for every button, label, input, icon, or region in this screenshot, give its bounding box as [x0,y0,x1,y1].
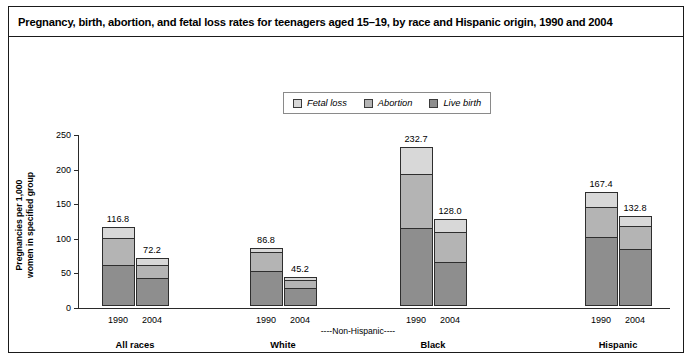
segment-live-birth [619,249,652,306]
segment-abortion [400,174,433,229]
group-label-white: White [270,340,295,350]
legend-item: Live birth [429,98,481,108]
y-tick-label: 250 [56,130,71,140]
bar-total-label: 232.7 [405,134,428,144]
bar-total-label: 72.2 [143,245,161,255]
legend-item: Abortion [364,98,413,108]
x-tick-label-year: 1990 [108,315,128,325]
bar-total-label: 167.4 [590,179,613,189]
non-hispanic-bracket-label: ----Non-Hispanic---- [321,326,395,336]
legend-label: Abortion [378,98,413,108]
y-tick-mark [74,170,78,171]
segment-abortion [434,232,467,264]
segment-live-birth [102,265,135,306]
group-label-all-races: All races [116,340,155,350]
segment-live-birth [434,262,467,306]
x-tick-label-year: 1990 [591,315,611,325]
legend-swatch-fetal-loss [293,99,302,108]
x-tick-label-year: 2004 [440,315,460,325]
figure-root: Pregnancy, birth, abortion, and fetal lo… [0,0,691,361]
x-tick-label-year: 2004 [625,315,645,325]
chart-legend: Fetal lossAbortionLive birth [283,92,491,114]
legend-label: Fetal loss [307,98,347,108]
segment-abortion [585,207,618,238]
y-tick-mark [74,135,78,136]
bar-total-label: 86.8 [257,235,275,245]
group-label-hispanic: Hispanic [599,340,638,350]
segment-live-birth [136,278,169,306]
bar-all-races-2004: 72.22004 [136,258,169,308]
segment-abortion [102,238,135,266]
bar-all-races-1990: 116.81990 [102,227,135,308]
y-tick-label: 150 [56,199,71,209]
bar-hispanic-2004: 132.82004 [619,216,652,308]
y-axis-line [78,135,79,309]
segment-fetal-loss [434,219,467,232]
page-title: Pregnancy, birth, abortion, and fetal lo… [9,16,612,28]
x-tick-label-year: 2004 [142,315,162,325]
y-tick-mark [74,273,78,274]
y-axis-title-line1: Pregnancies per 1,000 [14,180,24,271]
legend-item: Fetal loss [293,98,347,108]
chart-title-band: Pregnancy, birth, abortion, and fetal lo… [9,7,683,37]
y-axis-title-line2: women in specified group [25,172,35,278]
bar-total-label: 128.0 [439,206,462,216]
segment-live-birth [585,237,618,306]
bar-black-2004: 128.02004 [434,219,467,308]
y-tick-mark [74,204,78,205]
segment-abortion [619,226,652,250]
bar-total-label: 45.2 [291,264,309,274]
y-tick-mark [74,239,78,240]
segment-fetal-loss [585,192,618,207]
y-tick-mark [74,308,78,309]
x-tick-label-year: 2004 [290,315,310,325]
segment-abortion [136,265,169,279]
bar-hispanic-1990: 167.41990 [585,192,618,308]
bar-total-label: 116.8 [107,214,129,224]
segment-live-birth [284,288,317,306]
legend-label: Live birth [443,98,481,108]
segment-live-birth [250,271,283,306]
segment-abortion [250,252,283,272]
y-tick-label: 100 [56,234,71,244]
legend-swatch-live-birth [429,99,438,108]
legend-swatch-abortion [364,99,373,108]
y-tick-label: 0 [66,303,71,313]
y-tick-label: 50 [61,268,71,278]
segment-live-birth [400,228,433,306]
x-tick-label-year: 1990 [406,315,426,325]
y-axis-title: Pregnancies per 1,000 women in specified… [14,152,36,298]
bar-white-1990: 86.81990 [250,248,283,308]
bar-white-2004: 45.22004 [284,277,317,308]
plot-area: 050100150200250116.8199072.2200486.81990… [78,135,670,308]
group-label-black: Black [421,340,446,350]
segment-fetal-loss [400,147,433,175]
y-tick-label: 200 [56,165,71,175]
bar-black-1990: 232.71990 [400,147,433,308]
bar-total-label: 132.8 [624,203,647,213]
x-tick-label-year: 1990 [256,315,276,325]
x-axis-line [78,308,670,309]
